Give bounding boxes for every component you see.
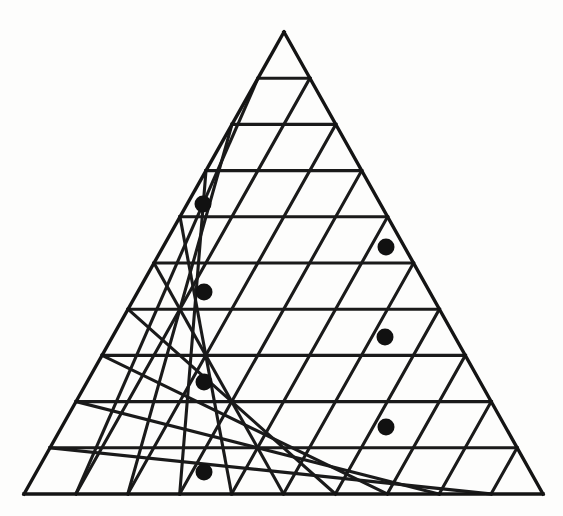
marker-dots-layer bbox=[195, 196, 395, 481]
triangular-lattice-figure bbox=[0, 0, 563, 516]
grid-line-left-parallel-7 bbox=[387, 355, 465, 494]
grid-line-left-parallel-3 bbox=[180, 171, 362, 494]
marker-dot-1[interactable] bbox=[195, 196, 212, 213]
marker-dot-6[interactable] bbox=[378, 419, 395, 436]
grid-lines-layer bbox=[50, 78, 517, 494]
figure-root bbox=[0, 0, 563, 516]
marker-dot-2[interactable] bbox=[378, 239, 395, 256]
marker-dot-7[interactable] bbox=[196, 464, 213, 481]
marker-dot-5[interactable] bbox=[196, 374, 213, 391]
marker-dot-4[interactable] bbox=[377, 329, 394, 346]
grid-line-left-parallel-9 bbox=[491, 448, 517, 494]
marker-dot-3[interactable] bbox=[196, 284, 213, 301]
grid-line-right-parallel-9 bbox=[50, 448, 491, 494]
